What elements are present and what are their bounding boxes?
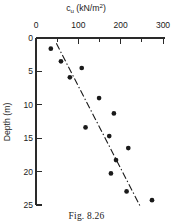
data-point bbox=[68, 75, 73, 80]
x-tick-label-100: 100 bbox=[71, 20, 85, 30]
y-tick-label-5: 5 bbox=[28, 66, 33, 76]
x-axis-title-units: (kN/m bbox=[74, 3, 100, 13]
data-point bbox=[126, 146, 131, 151]
cu-depth-scatter-chart: cu (kN/m2) 0 100 200 300 0 5 10 15 20 bbox=[0, 0, 173, 224]
data-point bbox=[48, 46, 53, 51]
data-point bbox=[59, 59, 64, 64]
y-tick-label-0: 0 bbox=[28, 33, 33, 43]
trend-line bbox=[56, 43, 140, 206]
x-tick-label-0: 0 bbox=[34, 20, 39, 30]
data-point bbox=[79, 66, 84, 71]
x-axis-title: cu (kN/m2) bbox=[66, 2, 106, 14]
x-tick-label-200: 200 bbox=[114, 20, 128, 30]
y-tick-label-20: 20 bbox=[24, 167, 34, 177]
figure-caption: Fig. 8.26 bbox=[0, 211, 173, 221]
data-point bbox=[109, 171, 114, 176]
data-point bbox=[107, 134, 112, 139]
data-point bbox=[114, 158, 119, 163]
data-point bbox=[150, 198, 155, 203]
data-point bbox=[124, 189, 129, 194]
data-points-group bbox=[48, 46, 154, 202]
y-tick-label-25: 25 bbox=[24, 200, 34, 210]
figure-container: cu (kN/m2) 0 100 200 300 0 5 10 15 20 bbox=[0, 0, 173, 224]
x-axis-title-close: ) bbox=[103, 3, 106, 13]
y-tick-label-15: 15 bbox=[24, 133, 34, 143]
y-axis-title: Depth (m) bbox=[2, 103, 12, 142]
y-tick-label-10: 10 bbox=[24, 100, 34, 110]
data-point bbox=[112, 111, 117, 116]
x-tick-label-300: 300 bbox=[156, 20, 170, 30]
data-point bbox=[83, 125, 88, 130]
data-point bbox=[97, 96, 102, 101]
